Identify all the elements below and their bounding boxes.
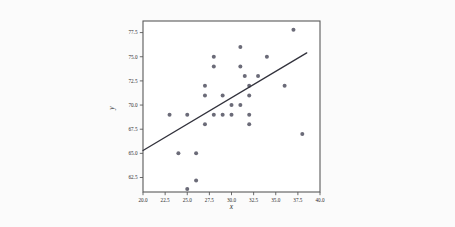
scatter-point [194,178,198,182]
scatter-point [247,122,251,126]
scatter-plot-figure: 20.022.525.027.530.032.535.037.540.0 62.… [0,0,455,227]
x-tick-label: 25.0 [183,197,192,203]
scatter-point [243,74,247,78]
scatter-point [185,187,189,191]
y-tick-label: 62.5 [128,174,137,180]
x-tick-label: 20.0 [138,197,147,203]
scatter-point [283,84,287,88]
scatter-point [203,122,207,126]
plot-canvas: 20.022.525.027.530.032.535.037.540.0 62.… [0,0,455,227]
scatter-point [176,151,180,155]
x-tick-label: 27.5 [205,197,214,203]
scatter-point [256,74,260,78]
y-tick-label: 72.5 [128,78,137,84]
x-tick-label: 37.5 [293,197,302,203]
y-tick-label: 67.5 [128,126,137,132]
scatter-point [212,113,216,117]
scatter-point [212,55,216,59]
scatter-point [203,93,207,97]
scatter-point [238,64,242,68]
y-tick-label: 70.0 [128,102,137,108]
scatter-point [168,113,172,117]
scatter-point [247,113,251,117]
scatter-point [265,55,269,59]
y-tick-label: 75.0 [128,54,137,60]
x-tick-label: 32.5 [249,197,258,203]
figure-card: 20.022.525.027.530.032.535.037.540.0 62.… [0,0,455,227]
scatter-point [230,113,234,117]
scatter-point [203,84,207,88]
scatter-point [221,93,225,97]
scatter-point [238,45,242,49]
x-tick-label: 22.5 [161,197,170,203]
scatter-point [230,103,234,107]
x-axis-label: x [229,202,234,211]
scatter-point [212,64,216,68]
y-tick-label: 77.5 [128,29,137,35]
scatter-point [247,93,251,97]
x-tick-label: 40.0 [315,197,324,203]
scatter-point [300,132,304,136]
scatter-point [238,103,242,107]
y-axis-label: y [107,106,116,111]
scatter-point [185,113,189,117]
scatter-point [194,151,198,155]
x-tick-label: 35.0 [271,197,280,203]
scatter-point [221,113,225,117]
scatter-point [291,28,295,32]
y-tick-label: 65.0 [128,150,137,156]
